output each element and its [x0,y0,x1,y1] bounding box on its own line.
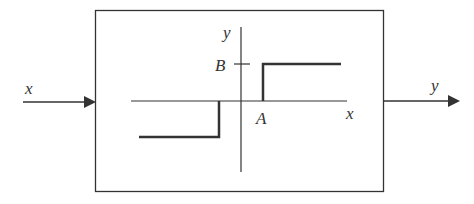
input-signal: x [23,79,96,108]
output-signal: y [384,76,460,107]
input-label: x [24,79,33,98]
block-diagram: x y B A x y [0,0,474,204]
y-axis-label: y [221,23,231,42]
output-label: y [429,76,439,95]
negative-branch [139,101,219,137]
positive-branch [263,64,341,101]
a-threshold-label: A [255,109,267,128]
x-axis-label: x [345,104,354,123]
arrowhead-icon [84,96,96,108]
b-level-label: B [215,56,226,75]
arrowhead-icon [448,95,460,107]
